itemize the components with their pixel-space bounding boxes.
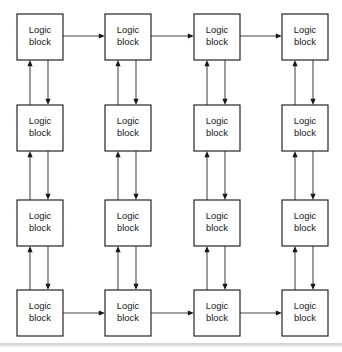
logic-block-label-line-1: Logic (206, 300, 229, 311)
logic-block-label-line-2: block (294, 222, 316, 233)
block-r1c1[interactable]: Logicblock (17, 14, 63, 60)
logic-block-label-line-2: block (29, 312, 51, 323)
logic-block-label-line-2: block (29, 127, 51, 138)
arrow-up-c3-r2-to-r1[interactable] (204, 60, 209, 105)
block-r2c4[interactable]: Logicblock (282, 105, 328, 151)
arrow-down-c1-r1-to-r2[interactable] (45, 60, 50, 105)
arrow-up-c1-r2-to-r1[interactable] (27, 60, 32, 105)
arrow-down-c4-r2-to-r3[interactable] (310, 151, 315, 200)
arrow-up-c2-r3-to-r2[interactable] (115, 151, 120, 200)
block-r3c4[interactable]: Logicblock (282, 200, 328, 246)
footer-divider (0, 344, 342, 346)
arrow-up-c3-r3-to-r2[interactable] (204, 151, 209, 200)
logic-block-label-line-2: block (29, 36, 51, 47)
logic-block-label-line-1: Logic (206, 115, 229, 126)
logic-block-label-line-2: block (206, 222, 228, 233)
arrow-up-c2-r4-to-r3[interactable] (115, 246, 120, 290)
logic-block-label-line-2: block (117, 127, 139, 138)
blocks-layer: LogicblockLogicblockLogicblockLogicblock… (17, 14, 328, 336)
logic-block-label-line-2: block (29, 222, 51, 233)
logic-block-label-line-2: block (117, 36, 139, 47)
block-r3c2[interactable]: Logicblock (105, 200, 151, 246)
arrow-up-c3-r4-to-r3[interactable] (204, 246, 209, 290)
block-r4c4[interactable]: Logicblock (282, 290, 328, 336)
arrow-r1c2-to-r1c3[interactable] (151, 33, 194, 38)
arrow-down-c1-r3-to-r4[interactable] (45, 246, 50, 290)
logic-block-label-line-1: Logic (294, 24, 317, 35)
arrow-r1c3-to-r1c4[interactable] (240, 33, 282, 38)
arrow-up-c4-r4-to-r3[interactable] (292, 246, 297, 290)
arrow-up-c4-r2-to-r1[interactable] (292, 60, 297, 105)
logic-block-label-line-2: block (117, 312, 139, 323)
logic-block-label-line-1: Logic (29, 115, 52, 126)
logic-block-label-line-1: Logic (117, 24, 140, 35)
logic-block-label-line-1: Logic (117, 115, 140, 126)
arrow-r1c1-to-r1c2[interactable] (63, 33, 105, 38)
arrow-r4c2-to-r4c3[interactable] (151, 310, 194, 315)
block-r4c2[interactable]: Logicblock (105, 290, 151, 336)
arrow-up-c4-r3-to-r2[interactable] (292, 151, 297, 200)
arrow-down-c1-r2-to-r3[interactable] (45, 151, 50, 200)
arrow-down-c2-r1-to-r2[interactable] (133, 60, 138, 105)
block-r3c3[interactable]: Logicblock (194, 200, 240, 246)
logic-block-label-line-2: block (294, 127, 316, 138)
logic-block-label-line-2: block (294, 312, 316, 323)
logic-block-label-line-2: block (117, 222, 139, 233)
arrow-down-c4-r3-to-r4[interactable] (310, 246, 315, 290)
block-r1c3[interactable]: Logicblock (194, 14, 240, 60)
logic-block-label-line-2: block (206, 312, 228, 323)
logic-block-label-line-2: block (206, 127, 228, 138)
logic-block-label-line-1: Logic (206, 210, 229, 221)
arrow-up-c1-r3-to-r2[interactable] (27, 151, 32, 200)
arrow-down-c3-r3-to-r4[interactable] (222, 246, 227, 290)
logic-block-label-line-1: Logic (117, 300, 140, 311)
block-r2c2[interactable]: Logicblock (105, 105, 151, 151)
arrow-r4c3-to-r4c4[interactable] (240, 310, 282, 315)
block-r1c2[interactable]: Logicblock (105, 14, 151, 60)
arrow-up-c1-r4-to-r3[interactable] (27, 246, 32, 290)
block-r4c3[interactable]: Logicblock (194, 290, 240, 336)
arrow-down-c2-r2-to-r3[interactable] (133, 151, 138, 200)
logic-block-label-line-1: Logic (29, 300, 52, 311)
arrow-down-c3-r1-to-r2[interactable] (222, 60, 227, 105)
connections-layer (27, 33, 315, 315)
arrow-down-c3-r2-to-r3[interactable] (222, 151, 227, 200)
logic-block-label-line-1: Logic (29, 210, 52, 221)
arrow-r4c1-to-r4c2[interactable] (63, 310, 105, 315)
arrow-up-c2-r2-to-r1[interactable] (115, 60, 120, 105)
logic-block-label-line-1: Logic (117, 210, 140, 221)
logic-block-label-line-2: block (206, 36, 228, 47)
diagram-canvas: LogicblockLogicblockLogicblockLogicblock… (0, 0, 342, 352)
block-r2c1[interactable]: Logicblock (17, 105, 63, 151)
block-r3c1[interactable]: Logicblock (17, 200, 63, 246)
logic-block-label-line-1: Logic (294, 300, 317, 311)
arrow-down-c2-r3-to-r4[interactable] (133, 246, 138, 290)
logic-block-label-line-1: Logic (294, 210, 317, 221)
logic-block-label-line-1: Logic (206, 24, 229, 35)
arrow-down-c4-r1-to-r2[interactable] (310, 60, 315, 105)
block-r4c1[interactable]: Logicblock (17, 290, 63, 336)
block-r2c3[interactable]: Logicblock (194, 105, 240, 151)
block-r1c4[interactable]: Logicblock (282, 14, 328, 60)
logic-block-label-line-1: Logic (29, 24, 52, 35)
logic-block-label-line-1: Logic (294, 115, 317, 126)
logic-block-grid-diagram: LogicblockLogicblockLogicblockLogicblock… (0, 0, 342, 352)
logic-block-label-line-2: block (294, 36, 316, 47)
